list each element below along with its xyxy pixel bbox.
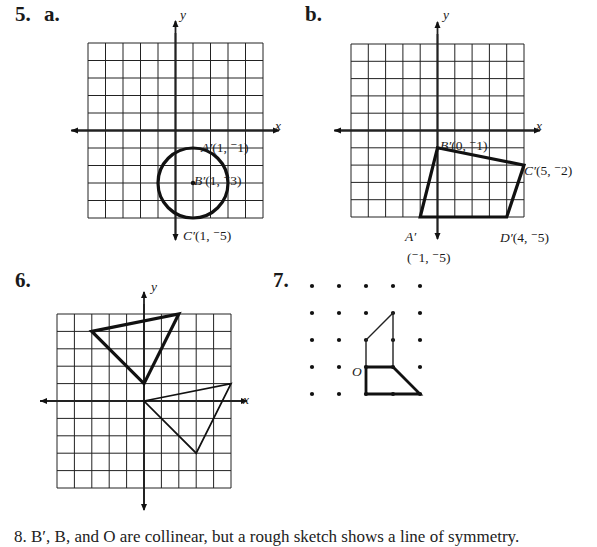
graph-5a [71,21,279,240]
point-label-a-prime-5a: A′(1, ⁻1) [201,139,249,156]
axis-label-y-6: y [151,279,157,295]
point-label-b-prime-5a: B′(1, ⁻3) [194,172,242,189]
point-label-c-prime-5a: C′(1, ⁻5) [183,227,231,244]
origin-label-7: O [352,364,362,380]
axis-label-y-5b: y [443,7,449,23]
dot-grid-7 [310,284,422,396]
point-label-d-prime-5b: D′(4, ⁻5) [500,229,549,246]
graph-6 [40,292,247,510]
graph-5b [334,22,540,239]
point-label-c-prime-5b: C′(5, ⁻2) [524,162,572,179]
axis-label-x-6: x [243,392,249,408]
problem-8-text-partial: 8. B′, B, and O are collinear, but a rou… [14,527,519,547]
axis-label-y-5a: y [180,7,186,23]
axis-label-x-5b: x [536,118,542,134]
point-label-b-prime-5b: B′(0, ⁻1) [440,137,488,154]
point-coords-a-prime-5b: (⁻1, ⁻5) [407,249,451,266]
axis-label-x-5a: x [275,118,281,134]
point-label-a-prime-5b: A′ [405,229,416,245]
